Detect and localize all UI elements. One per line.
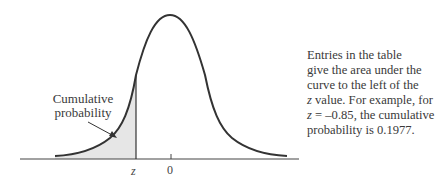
bell-curve: [55, 15, 287, 156]
pointer-arrow: [88, 122, 112, 135]
description-text: Entries in the table give the area under…: [307, 48, 441, 138]
desc-line-5: z = –0.85, the cumulative: [307, 108, 441, 123]
desc-line-2: give the area under the: [307, 63, 441, 78]
desc-line-6: probability is 0.1977.: [307, 123, 441, 138]
desc-line-3: curve to the left of the: [307, 78, 441, 93]
cumulative-probability-label: Cumulative probability: [52, 92, 114, 120]
desc-line-1: Entries in the table: [307, 48, 441, 63]
zero-axis-label: 0: [167, 163, 173, 178]
z-axis-label: z: [131, 164, 136, 179]
desc-line-4: z value. For example, for: [307, 93, 441, 108]
